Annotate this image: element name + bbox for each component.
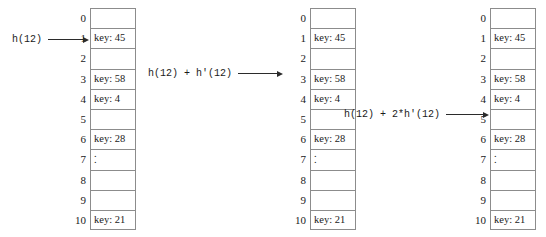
row-index: 6 xyxy=(66,129,90,149)
table-cell: key: 58 xyxy=(490,69,536,89)
probe-3-label: h(12) + 2*h'(12) xyxy=(344,109,440,120)
table-row: 7 . . xyxy=(66,149,136,169)
table-row: 6 key: 28 xyxy=(466,129,536,149)
table-cell: key: 28 xyxy=(90,129,136,149)
table-cell xyxy=(490,170,536,190)
row-index: 8 xyxy=(286,170,310,190)
table-row: 1 key: 45 xyxy=(286,28,356,48)
table-row: 7 . . xyxy=(286,149,356,169)
table-cell-ellipsis: . . xyxy=(90,149,136,169)
row-index: 0 xyxy=(66,8,90,28)
row-index: 8 xyxy=(66,170,90,190)
arrow-head xyxy=(83,37,89,43)
ellipsis-dot: . xyxy=(494,157,532,163)
table-row: 1 key: 45 xyxy=(466,28,536,48)
arrow-shaft xyxy=(48,39,84,40)
table-cell-ellipsis: . . xyxy=(310,149,356,169)
table-cell: key: 45 xyxy=(90,28,136,48)
row-index: 7 xyxy=(66,149,90,169)
table-row: 3 key: 58 xyxy=(66,69,136,89)
table-row: 2 xyxy=(66,48,136,68)
row-index: 3 xyxy=(66,69,90,89)
table-row: 6 key: 28 xyxy=(66,129,136,149)
table-cell xyxy=(490,8,536,28)
table-row: 9 xyxy=(466,190,536,210)
row-index: 1 xyxy=(466,28,490,48)
table-row: 10 key: 21 xyxy=(66,210,136,230)
row-index: 2 xyxy=(66,48,90,68)
table-row: 8 xyxy=(466,170,536,190)
table-cell xyxy=(90,8,136,28)
table-row: 0 xyxy=(286,8,356,28)
double-hashing-diagram: 0 1 key: 45 2 3 key: 58 4 key: 4 5 6 key… xyxy=(0,0,546,237)
table-row: 3 key: 58 xyxy=(466,69,536,89)
table-row: 4 key: 4 xyxy=(466,89,536,109)
probe-1-arrow-icon xyxy=(48,36,89,44)
row-index: 10 xyxy=(286,210,310,230)
row-index: 5 xyxy=(286,109,310,129)
table-cell: key: 21 xyxy=(90,210,136,230)
table-cell: key: 45 xyxy=(490,28,536,48)
table-row: 8 xyxy=(286,170,356,190)
row-index: 9 xyxy=(466,190,490,210)
table-cell: key: 21 xyxy=(310,210,356,230)
row-index: 3 xyxy=(466,69,490,89)
probe-2-arrow-icon xyxy=(238,70,283,78)
row-index: 4 xyxy=(66,89,90,109)
row-index: 3 xyxy=(286,69,310,89)
table-cell xyxy=(310,8,356,28)
row-index: 1 xyxy=(286,28,310,48)
table-row: 3 key: 58 xyxy=(286,69,356,89)
table-cell: key: 28 xyxy=(310,129,356,149)
table-row: 4 key: 4 xyxy=(66,89,136,109)
row-index: 2 xyxy=(466,48,490,68)
row-index: 5 xyxy=(66,109,90,129)
row-index: 0 xyxy=(466,8,490,28)
table-cell: key: 4 xyxy=(90,89,136,109)
table-row: 0 xyxy=(466,8,536,28)
table-row: 4 key: 4 xyxy=(286,89,356,109)
row-index: 10 xyxy=(466,210,490,230)
row-index: 4 xyxy=(286,89,310,109)
table-cell xyxy=(310,48,356,68)
arrow-head xyxy=(277,71,283,77)
table-row: 10 key: 21 xyxy=(286,210,356,230)
row-index: 4 xyxy=(466,89,490,109)
row-index: 7 xyxy=(466,149,490,169)
row-index: 2 xyxy=(286,48,310,68)
table-cell: key: 58 xyxy=(310,69,356,89)
ellipsis-dot: . xyxy=(314,157,352,163)
probe-1-annotation: h(12) xyxy=(12,34,89,45)
table-cell xyxy=(310,170,356,190)
table-cell xyxy=(490,109,536,129)
table-row: 5 xyxy=(66,109,136,129)
arrow-shaft xyxy=(238,73,278,74)
arrow-shaft xyxy=(446,114,484,115)
row-index: 7 xyxy=(286,149,310,169)
table-cell: key: 28 xyxy=(490,129,536,149)
probe-1-label: h(12) xyxy=(12,34,42,45)
row-index: 9 xyxy=(66,190,90,210)
probe-3-annotation: h(12) + 2*h'(12) xyxy=(344,109,489,120)
row-index: 6 xyxy=(466,129,490,149)
row-index: 0 xyxy=(286,8,310,28)
probe-3-arrow-icon xyxy=(446,111,489,119)
table-row: 9 xyxy=(66,190,136,210)
table-cell: key: 4 xyxy=(490,89,536,109)
ellipsis-dot: . xyxy=(94,157,132,163)
table-row: 7 . . xyxy=(466,149,536,169)
table-row: 8 xyxy=(66,170,136,190)
table-row: 9 xyxy=(286,190,356,210)
table-cell xyxy=(90,170,136,190)
row-index: 10 xyxy=(66,210,90,230)
table-cell xyxy=(490,48,536,68)
arrow-head xyxy=(483,112,489,118)
row-index: 8 xyxy=(466,170,490,190)
table-cell xyxy=(310,190,356,210)
table-cell-ellipsis: . . xyxy=(490,149,536,169)
table-cell: key: 45 xyxy=(310,28,356,48)
row-index: 9 xyxy=(286,190,310,210)
table-cell: key: 4 xyxy=(310,89,356,109)
table-row: 6 key: 28 xyxy=(286,129,356,149)
table-cell: key: 21 xyxy=(490,210,536,230)
